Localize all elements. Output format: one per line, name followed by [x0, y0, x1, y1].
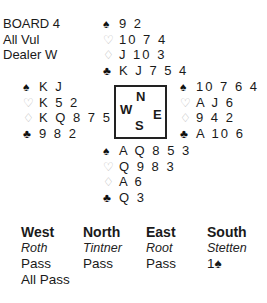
south-hearts: ♡Q 9 8 3 — [103, 159, 191, 175]
diamond-icon: ♢ — [103, 48, 119, 64]
compass-east: E — [153, 107, 162, 122]
auction-col-north: North Tintner Pass — [83, 224, 149, 272]
club-icon: ♣ — [103, 191, 119, 207]
club-icon: ♣ — [180, 127, 196, 143]
auction-col-east: East Root Pass — [146, 224, 212, 272]
seat-north: North — [83, 224, 149, 240]
diamond-icon: ♢ — [23, 111, 39, 127]
heart-icon: ♡ — [103, 33, 119, 49]
spade-icon: ♠ — [23, 80, 39, 96]
north-diamonds: ♢J 10 3 — [103, 47, 188, 63]
compass-north: N — [136, 89, 145, 104]
bid-east-1: Pass — [146, 256, 212, 272]
bid-west-1: Pass — [21, 256, 87, 272]
heart-icon: ♡ — [23, 96, 39, 112]
north-hand: ♠9 2 ♡10 7 4 ♢J 10 3 ♣K J 7 5 4 — [103, 16, 188, 78]
west-spades: ♠K J — [23, 79, 112, 95]
player-east: Root — [146, 240, 212, 256]
west-hearts: ♡K 5 2 — [23, 95, 112, 111]
player-north: Tintner — [83, 240, 149, 256]
dealer: Dealer W — [3, 47, 57, 63]
west-diamonds: ♢K Q 8 7 5 — [23, 110, 112, 126]
north-spades: ♠9 2 — [103, 16, 188, 32]
bid-north-1: Pass — [83, 256, 149, 272]
east-spades: ♠10 7 6 4 — [180, 79, 259, 95]
west-hand: ♠K J ♡K 5 2 ♢K Q 8 7 5 ♣9 8 2 — [23, 79, 112, 141]
diamond-icon: ♢ — [103, 175, 119, 191]
bid-west-2: All Pass — [21, 272, 87, 288]
auction-col-south: South Stetten 1♠ — [207, 224, 267, 272]
club-icon: ♣ — [23, 127, 39, 143]
spade-icon: ♠ — [180, 80, 196, 96]
south-diamonds: ♢A 6 — [103, 174, 191, 190]
heart-icon: ♡ — [180, 96, 196, 112]
seat-south: South — [207, 224, 267, 240]
seat-west: West — [21, 224, 87, 240]
diamond-icon: ♢ — [180, 111, 196, 127]
south-hand: ♠A Q 8 5 3 ♡Q 9 8 3 ♢A 6 ♣Q 3 — [103, 143, 191, 205]
seat-east: East — [146, 224, 212, 240]
player-south: Stetten — [207, 240, 267, 256]
south-spades: ♠A Q 8 5 3 — [103, 143, 191, 159]
auction-col-west: West Roth Pass All Pass — [21, 224, 87, 288]
north-clubs: ♣K J 7 5 4 — [103, 63, 188, 79]
east-clubs: ♣A 10 6 — [180, 126, 259, 142]
vulnerability: All Vul — [3, 32, 39, 48]
compass-south: S — [135, 118, 144, 133]
west-clubs: ♣9 8 2 — [23, 126, 112, 142]
compass-west: W — [120, 102, 132, 117]
east-hand: ♠10 7 6 4 ♡A J 6 ♢9 4 2 ♣A 10 6 — [180, 79, 259, 141]
east-diamonds: ♢9 4 2 — [180, 110, 259, 126]
spade-icon: ♠ — [103, 144, 119, 160]
player-west: Roth — [21, 240, 87, 256]
spade-icon: ♠ — [103, 17, 119, 33]
board-number: BOARD 4 — [3, 16, 60, 32]
compass-box: N W E S — [114, 85, 167, 139]
bid-south-1: 1♠ — [207, 256, 267, 272]
heart-icon: ♡ — [103, 160, 119, 176]
club-icon: ♣ — [103, 64, 119, 80]
north-hearts: ♡10 7 4 — [103, 32, 188, 48]
south-clubs: ♣Q 3 — [103, 190, 191, 206]
east-hearts: ♡A J 6 — [180, 95, 259, 111]
